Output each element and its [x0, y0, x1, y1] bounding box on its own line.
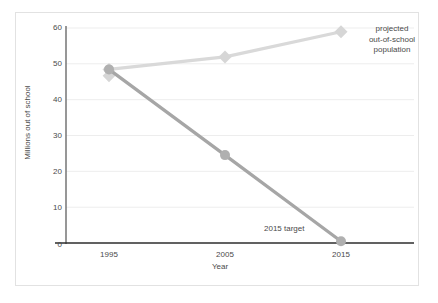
projected-annotation-line-2: out-of-school [356, 35, 428, 46]
y-tick-label-50: 50 [38, 59, 62, 68]
projected-series-annotation: projected out-of-school population [356, 24, 428, 56]
series-projected-out-of-school-population [103, 25, 348, 82]
y-tick-label-10: 10 [38, 203, 62, 212]
target-series-annotation: 2015 target [264, 224, 304, 235]
series-2015-target [104, 64, 346, 246]
series-target-marker-2015 [336, 236, 346, 246]
y-tick-label-40: 40 [38, 95, 62, 104]
series-projected-marker-2005 [219, 50, 232, 63]
series-target-marker-2005 [220, 150, 230, 160]
series-projected-marker-2015 [335, 25, 348, 38]
y-tick-label-30: 30 [38, 131, 62, 140]
x-axis-title: Year [185, 262, 255, 271]
projected-annotation-line-3: population [356, 45, 428, 56]
y-axis-title: Millions out of school [23, 68, 32, 178]
y-tick-label-60: 60 [38, 23, 62, 32]
x-tick-label-2015: 2015 [321, 250, 361, 259]
projected-annotation-line-1: projected [356, 24, 428, 35]
chart-figure: 60 50 40 30 20 10 0 1995 2005 2015 Milli… [0, 0, 438, 303]
y-tick-label-0: 0 [38, 240, 62, 249]
x-tick-label-1995: 1995 [89, 250, 129, 259]
y-tick-label-20: 20 [38, 167, 62, 176]
series-target-marker-1995 [104, 64, 114, 74]
x-tick-label-2005: 2005 [205, 250, 245, 259]
